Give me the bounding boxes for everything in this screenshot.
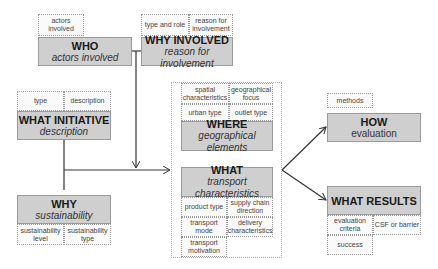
what-initiative-title: WHAT INITIATIVE (19, 114, 110, 126)
why-involved-title: WHY INVOLVED (145, 34, 229, 46)
who-box: WHO actors involved (38, 37, 132, 66)
why-box: WHY sustainability (17, 195, 111, 224)
tag-methods: methods (327, 93, 373, 108)
tag-transport-motivation: transport motivation (181, 237, 227, 257)
tag-geographical-focus: geographical focus (229, 83, 273, 104)
who-subtitle: actors involved (52, 52, 119, 64)
what-box: WHAT transport characteristics (181, 167, 273, 197)
tag-product-type: product type (181, 197, 227, 217)
tag-csf-or-barrier: CSF or barrier (373, 215, 421, 235)
why-title: WHY (51, 198, 77, 210)
tag-type: type (17, 91, 64, 111)
what-results-title: WHAT RESULTS (331, 195, 417, 207)
why-subtitle: sustainability (35, 210, 92, 222)
tag-description: description (64, 91, 111, 111)
tag-success: success (327, 235, 373, 255)
tag-sustainability-level: sustainability level (17, 224, 64, 245)
what-initiative-subtitle: description (40, 126, 88, 138)
how-subtitle: evaluation (351, 128, 397, 140)
where-box: WHERE geographical elements (181, 121, 273, 151)
tag-sustainability-type: sustainability type (64, 224, 111, 245)
tag-evaluation-criteria: evaluation criteria (327, 215, 373, 235)
tag-delivery-characteristics: delivery characteristics (227, 217, 273, 237)
tag-supply-chain-direction: supply chain direction (227, 197, 273, 217)
what-results-box: WHAT RESULTS (327, 186, 421, 215)
where-title: WHERE (207, 118, 248, 130)
tag-spatial-characteristics: spatial characteristics (181, 83, 229, 104)
what-title: WHAT (211, 164, 243, 176)
why-involved-box: WHY INVOLVED reason for involvement (141, 37, 233, 66)
how-box: HOW evaluation (327, 113, 421, 142)
what-initiative-box: WHAT INITIATIVE description (17, 111, 111, 140)
tag-transport-mode: transport mode (181, 217, 227, 237)
tag-actors-involved: actors involved (38, 14, 84, 36)
who-title: WHO (72, 40, 99, 52)
where-subtitle: geographical elements (182, 130, 272, 154)
why-involved-subtitle: reason for involvement (142, 46, 232, 70)
how-title: HOW (361, 116, 388, 128)
